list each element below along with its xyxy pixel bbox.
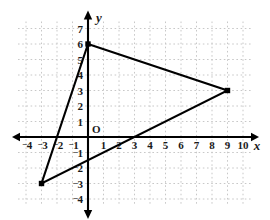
- origin-label: O: [92, 123, 101, 135]
- axis-tick-label: 3: [78, 85, 84, 97]
- axis-tick-label: 7: [78, 23, 84, 35]
- axis-tick-label: 7: [194, 139, 200, 151]
- y-axis-label: y: [94, 10, 102, 25]
- axis-tick-label: 1: [101, 139, 107, 151]
- axis-tick-label: 4: [147, 139, 153, 151]
- axis-tick-label: 5: [163, 139, 169, 151]
- axis-tick-label: 1: [78, 116, 84, 128]
- vertex-point-marker: [39, 181, 44, 186]
- plot-svg: –4–3–2–112345678910 7654321–1–2–3–4 O x …: [0, 0, 270, 220]
- coordinate-plane-figure: –4–3–2–112345678910 7654321–1–2–3–4 O x …: [0, 0, 270, 220]
- axis-tick-label: 9: [225, 139, 231, 151]
- axis-tick-label: 8: [209, 139, 215, 151]
- x-axis-label: x: [253, 138, 261, 153]
- axis-tick-label: 6: [78, 38, 84, 50]
- axis-tick-label: 2: [78, 100, 84, 112]
- axis-tick-label: 3: [132, 139, 138, 151]
- axis-tick-label: 10: [238, 139, 250, 151]
- vertex-point-marker: [85, 41, 90, 46]
- axis-tick-label: 6: [178, 139, 184, 151]
- vertex-point-marker: [225, 88, 230, 93]
